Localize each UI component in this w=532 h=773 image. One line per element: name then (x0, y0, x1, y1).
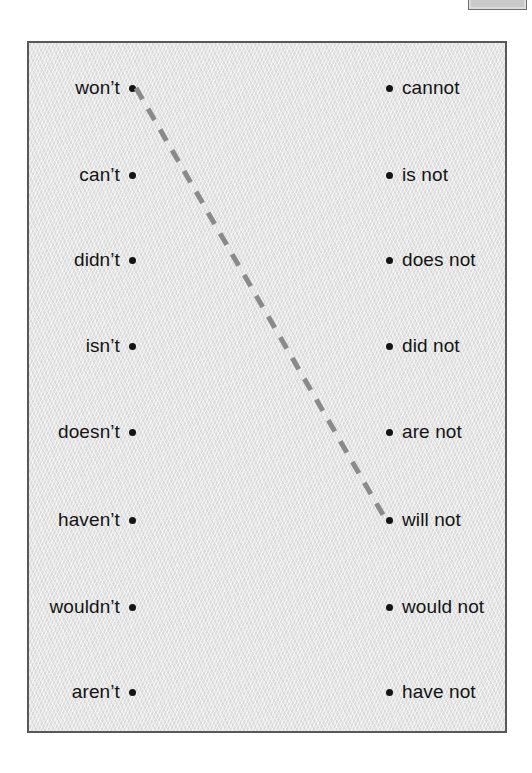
term-label: isn’t (86, 335, 120, 357)
right-term-item[interactable]: are not (386, 418, 526, 446)
left-term-item[interactable]: wouldn’t (29, 593, 136, 621)
right-term-item[interactable]: is not (386, 161, 526, 189)
bullet-dot-icon[interactable] (386, 172, 393, 179)
term-label: aren’t (72, 681, 120, 703)
bullet-dot-icon[interactable] (386, 257, 393, 264)
bullet-dot-icon[interactable] (386, 85, 393, 92)
cropped-box-top-right (468, 0, 527, 10)
term-label: cannot (402, 77, 460, 99)
left-term-item[interactable]: aren’t (29, 678, 136, 706)
term-label: is not (402, 164, 448, 186)
bullet-dot-icon[interactable] (129, 517, 136, 524)
left-term-item[interactable]: won’t (29, 74, 136, 102)
term-label: does not (402, 249, 476, 271)
left-term-item[interactable]: didn’t (29, 246, 136, 274)
term-label: did not (402, 335, 460, 357)
bullet-dot-icon[interactable] (129, 343, 136, 350)
term-label: doesn’t (58, 421, 120, 443)
bullet-dot-icon[interactable] (129, 172, 136, 179)
left-term-item[interactable]: doesn’t (29, 418, 136, 446)
right-term-item[interactable]: have not (386, 678, 526, 706)
left-term-item[interactable]: isn’t (29, 332, 136, 360)
bullet-dot-icon[interactable] (129, 85, 136, 92)
bullet-dot-icon[interactable] (386, 343, 393, 350)
term-label: won’t (75, 77, 120, 99)
left-term-item[interactable]: haven’t (29, 506, 136, 534)
bullet-dot-icon[interactable] (386, 604, 393, 611)
bullet-dot-icon[interactable] (129, 604, 136, 611)
matching-exercise-panel: won’tcan’tdidn’tisn’tdoesn’thaven’twould… (27, 41, 507, 733)
bullet-dot-icon[interactable] (386, 689, 393, 696)
bullet-dot-icon[interactable] (129, 257, 136, 264)
right-term-item[interactable]: would not (386, 593, 526, 621)
bullet-dot-icon[interactable] (129, 429, 136, 436)
bullet-dot-icon[interactable] (386, 429, 393, 436)
right-term-item[interactable]: will not (386, 506, 526, 534)
term-label: will not (402, 509, 461, 531)
left-term-item[interactable]: can’t (29, 161, 136, 189)
term-label: have not (402, 681, 476, 703)
right-term-item[interactable]: does not (386, 246, 526, 274)
term-label: didn’t (74, 249, 120, 271)
right-term-item[interactable]: cannot (386, 74, 526, 102)
term-label: can’t (79, 164, 120, 186)
term-label: would not (402, 596, 484, 618)
term-label: are not (402, 421, 462, 443)
right-term-item[interactable]: did not (386, 332, 526, 360)
match-connector-line[interactable] (136, 88, 386, 520)
bullet-dot-icon[interactable] (129, 689, 136, 696)
connector-lines-layer (29, 43, 509, 735)
term-label: wouldn’t (49, 596, 120, 618)
bullet-dot-icon[interactable] (386, 517, 393, 524)
cropped-box-inner (471, 0, 524, 7)
term-label: haven’t (58, 509, 120, 531)
